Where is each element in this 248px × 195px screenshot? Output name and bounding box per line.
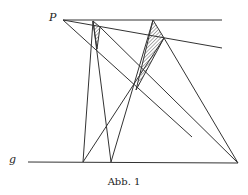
right-line-a — [111, 20, 153, 162]
line-label-g: g — [9, 153, 16, 166]
figure-caption: Abb. 1 — [0, 176, 248, 187]
geometry-diagram — [0, 0, 248, 195]
baseline-g — [28, 162, 238, 163]
long-diagonal — [63, 20, 192, 137]
slant-ray — [63, 20, 222, 48]
left-line-b — [93, 21, 111, 162]
point-label-p: P — [49, 11, 56, 24]
